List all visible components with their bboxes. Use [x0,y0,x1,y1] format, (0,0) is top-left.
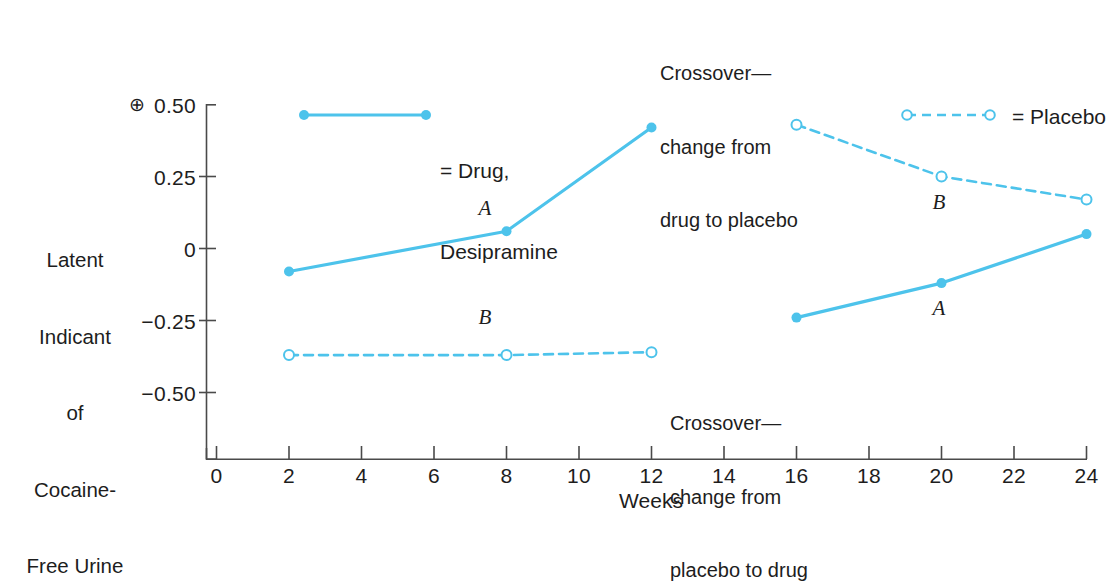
y-axis-title-line-1: Indicant [10,324,140,350]
data-point[interactable] [792,313,802,323]
data-point[interactable] [502,350,512,360]
data-point[interactable] [647,347,657,357]
legend-drug-label-line-0: = Drug, [440,157,670,184]
y-axis-title: Latent Indicant of Cocaine- Free Urine [10,196,140,585]
x-tick-label-12: 24 [1057,464,1117,488]
x-tick-label-0: 0 [187,464,247,488]
positive-direction-icon: ⊕ [126,96,148,113]
annotation-crossover-bottom-line-1: change from [670,485,900,510]
x-tick-label-11: 22 [984,464,1044,488]
annotation-crossover-bottom: Crossover— change from placebo to drug [670,362,900,585]
y-tick-label-1: 0.25 [118,166,196,190]
y-axis-title-line-4: Free Urine [10,553,140,579]
legend-drug-swatch [296,104,438,126]
legend-placebo-label: = Placebo [1012,103,1117,130]
data-point[interactable] [284,350,294,360]
y-axis-title-line-2: of [10,400,140,426]
data-point[interactable] [1082,195,1092,205]
data-point[interactable] [937,172,947,182]
x-tick-label-1: 2 [259,464,319,488]
series-label-a-right: A [922,296,956,321]
annotation-crossover-top: Crossover— change from drug to placebo [660,12,890,282]
y-axis [199,104,216,460]
x-tick-label-2: 4 [332,464,392,488]
annotation-crossover-bottom-line-2: placebo to drug [670,558,900,583]
y-axis-title-line-3: Cocaine- [10,477,140,503]
annotation-crossover-top-line-0: Crossover— [660,61,890,86]
annotation-crossover-bottom-line-0: Crossover— [670,411,900,436]
annotation-crossover-top-line-2: drug to placebo [660,208,890,233]
data-point[interactable] [937,278,947,288]
legend-drug-label-line-1: Desipramine [440,238,670,265]
x-tick-label-5: 10 [549,464,609,488]
series-label-b-left: B [468,305,502,330]
series-label-b-right: B [922,190,956,215]
data-point[interactable] [1082,229,1092,239]
annotation-crossover-top-line-1: change from [660,135,890,160]
data-point[interactable] [284,267,294,277]
series-placebo-segment-pre-crossover [284,347,657,360]
series-label-a-left: A [468,196,502,221]
x-axis [206,446,1087,459]
series-line [289,352,652,355]
x-tick-label-10: 20 [912,464,972,488]
legend-placebo-swatch [898,104,1008,126]
x-tick-label-4: 8 [477,464,537,488]
y-axis-title-line-0: Latent [10,247,140,273]
x-tick-label-3: 6 [404,464,464,488]
